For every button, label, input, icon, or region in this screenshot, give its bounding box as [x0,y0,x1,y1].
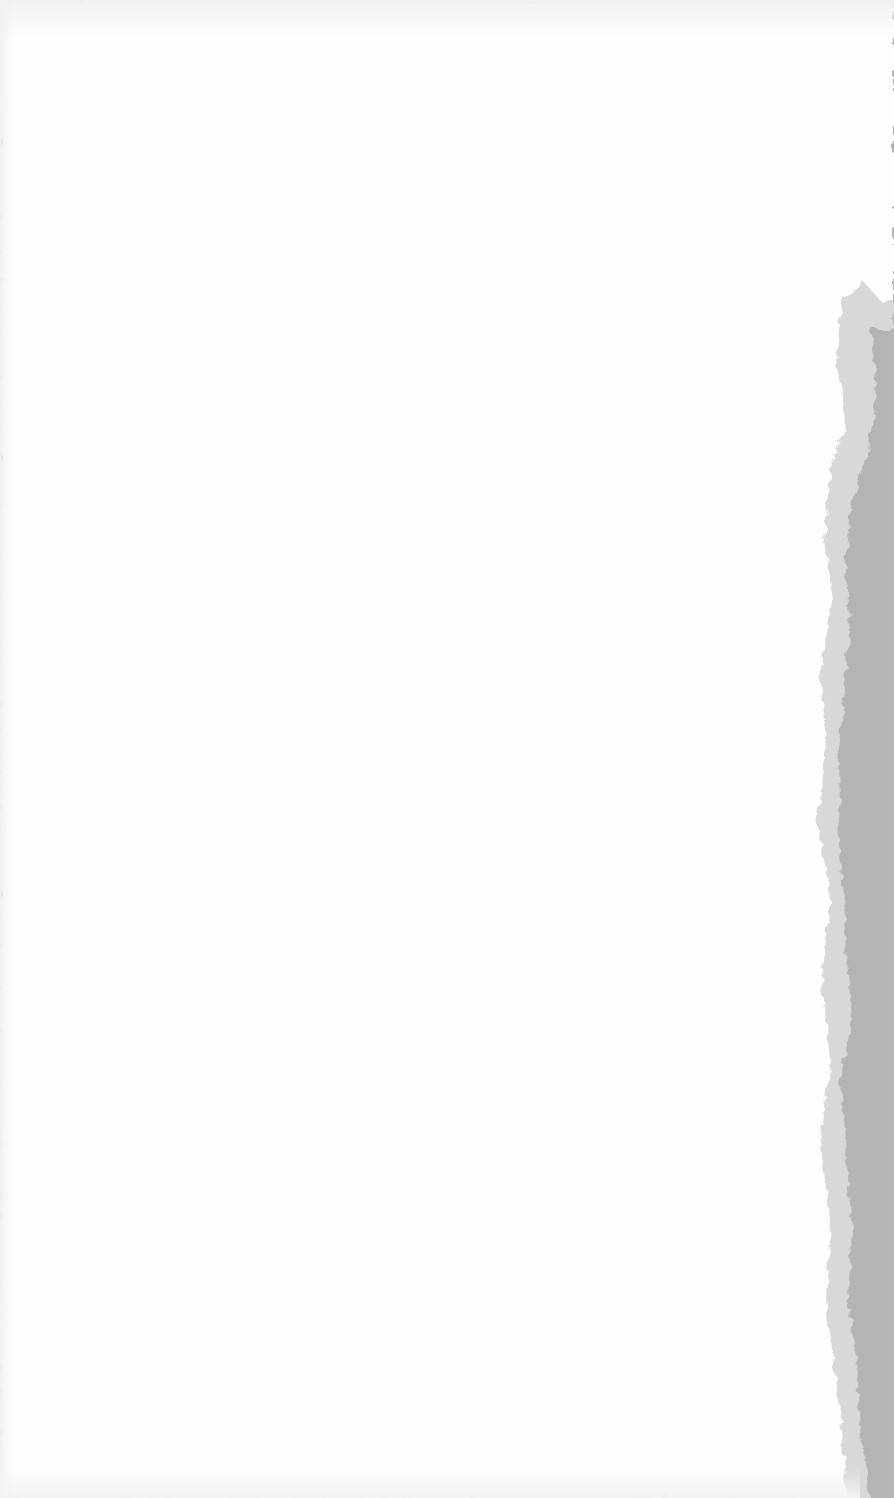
paper-sheet [0,0,894,1498]
paper-body [0,0,894,1498]
paper-texture-bottom [0,1468,860,1498]
paper-texture-left [0,0,14,1498]
paper-texture-top [0,0,894,40]
